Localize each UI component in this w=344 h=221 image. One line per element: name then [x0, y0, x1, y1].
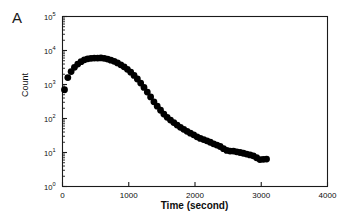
- svg-text:3000: 3000: [252, 191, 270, 200]
- svg-text:103: 103: [44, 79, 56, 90]
- scatter-plot: 100101102103104105 01000200030004000: [0, 0, 344, 221]
- figure-panel-a: A Count Time (second) 100101102103104105…: [0, 0, 344, 221]
- y-axis-major-ticks: [63, 17, 68, 187]
- svg-text:102: 102: [44, 113, 56, 124]
- svg-text:105: 105: [44, 11, 56, 22]
- x-axis-tick-labels: 01000200030004000: [60, 191, 337, 200]
- y-axis-title: Count: [20, 55, 30, 115]
- svg-text:100: 100: [44, 181, 56, 192]
- panel-label: A: [12, 10, 22, 25]
- svg-text:101: 101: [44, 147, 56, 158]
- svg-text:1000: 1000: [120, 191, 138, 200]
- data-point-series: [61, 55, 270, 163]
- y-axis-tick-labels: 100101102103104105: [44, 11, 56, 192]
- x-axis-major-ticks: [63, 182, 328, 187]
- axes-frame: [63, 17, 328, 187]
- x-axis-title: Time (second): [62, 200, 327, 211]
- svg-text:4000: 4000: [319, 191, 337, 200]
- svg-text:2000: 2000: [186, 191, 204, 200]
- svg-text:0: 0: [60, 191, 65, 200]
- svg-text:104: 104: [44, 45, 56, 56]
